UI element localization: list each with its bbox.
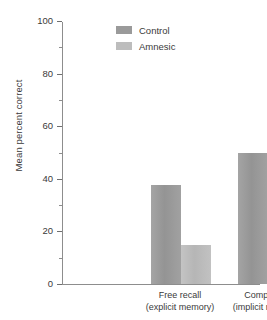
bar-amnesic-group-1 bbox=[181, 245, 211, 284]
y-tick-40: 40 bbox=[57, 179, 62, 180]
bar-shading bbox=[238, 153, 267, 285]
y-tick-label-80: 80 bbox=[42, 68, 53, 79]
legend-item-control: Control bbox=[116, 22, 175, 38]
category-label-2: Completion(implicit memory) bbox=[207, 290, 267, 313]
bar-chart: Mean percent correct 020406080100 Free r… bbox=[0, 0, 267, 320]
plot-area: 020406080100 Free recall(explicit memory… bbox=[62, 22, 260, 285]
y-tick-label-20: 20 bbox=[42, 225, 53, 236]
bar-shading bbox=[181, 245, 211, 284]
legend-label-amnesic: Amnesic bbox=[139, 41, 175, 52]
y-tick-minor-30 bbox=[59, 205, 62, 206]
y-tick-label-0: 0 bbox=[48, 278, 53, 289]
y-tick-minor-10 bbox=[59, 258, 62, 259]
bar-shading bbox=[151, 185, 181, 284]
bar-control-group-1 bbox=[151, 185, 181, 284]
bars-layer bbox=[63, 22, 260, 284]
y-tick-60: 60 bbox=[57, 126, 62, 127]
chart-legend: ControlAmnesic bbox=[116, 22, 175, 54]
category-label-line1: Free recall bbox=[159, 290, 202, 300]
y-tick-minor-70 bbox=[59, 100, 62, 101]
legend-label-control: Control bbox=[139, 25, 170, 36]
y-tick-label-100: 100 bbox=[37, 15, 53, 26]
legend-swatch-amnesic bbox=[116, 42, 132, 50]
y-tick-minor-90 bbox=[59, 47, 62, 48]
y-tick-20: 20 bbox=[57, 231, 62, 232]
y-axis-title: Mean percent correct bbox=[13, 56, 24, 196]
y-tick-0: 0 bbox=[57, 284, 62, 285]
legend-item-amnesic: Amnesic bbox=[116, 38, 175, 54]
category-label-line2: (implicit memory) bbox=[207, 302, 267, 314]
category-label-line1: Completion bbox=[244, 290, 267, 300]
y-tick-label-40: 40 bbox=[42, 173, 53, 184]
bar-control-group-2 bbox=[238, 153, 267, 285]
legend-swatch-control bbox=[116, 26, 132, 34]
x-axis-line bbox=[62, 284, 260, 285]
y-tick-label-60: 60 bbox=[42, 120, 53, 131]
y-tick-100: 100 bbox=[57, 21, 62, 22]
y-tick-minor-50 bbox=[59, 153, 62, 154]
y-tick-80: 80 bbox=[57, 74, 62, 75]
